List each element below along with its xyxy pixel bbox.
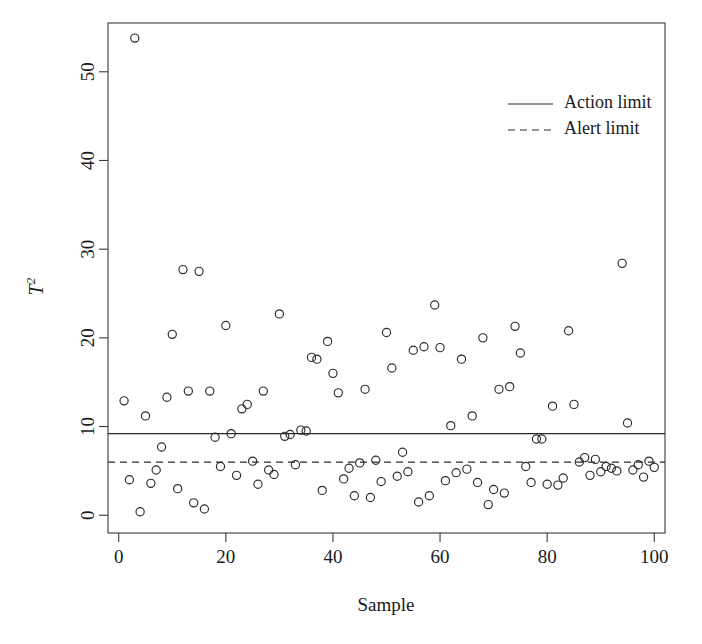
legend-label: Action limit (564, 92, 652, 112)
y-tick-label: 20 (77, 328, 98, 347)
control-chart: 01020304050 020406080100 Sample T 2 Acti… (0, 0, 702, 644)
x-tick-label: 60 (431, 546, 450, 567)
x-axis-title: Sample (358, 594, 415, 615)
chart-canvas: 01020304050 020406080100 Sample T 2 Acti… (0, 0, 702, 644)
legend-label: Alert limit (564, 118, 640, 138)
y-tick-label: 30 (77, 240, 98, 259)
y-tick-label: 40 (77, 151, 98, 170)
x-tick-label: 100 (640, 546, 669, 567)
x-tick-label: 40 (323, 546, 342, 567)
x-tick-label: 20 (216, 546, 235, 567)
y-tick-label: 50 (77, 62, 98, 81)
y-axis-title-exponent: 2 (23, 277, 38, 284)
x-tick-label: 0 (114, 546, 124, 567)
x-tick-label: 80 (538, 546, 557, 567)
y-tick-label: 0 (77, 511, 98, 521)
y-tick-label: 10 (77, 417, 98, 436)
